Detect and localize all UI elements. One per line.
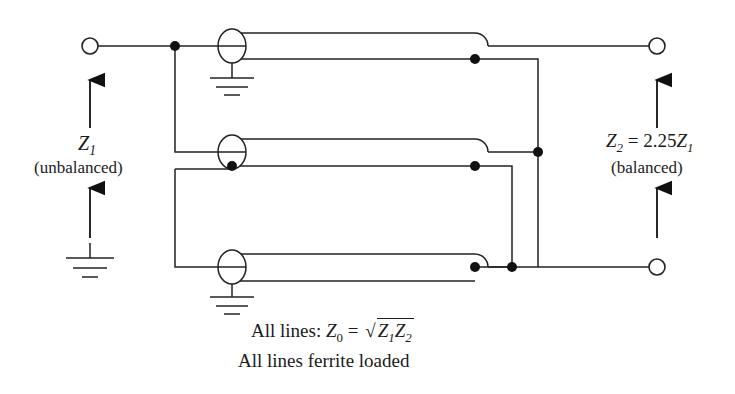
left-mode-label: (unbalanced): [34, 158, 123, 178]
output-terminal-bottom[interactable]: [649, 259, 665, 275]
right-impedance-label: Z2 = 2.25Z1: [606, 130, 694, 156]
z2-symbol: Z: [606, 130, 617, 151]
input-terminal[interactable]: [82, 38, 98, 54]
junction-dot-line1-shield: [470, 54, 480, 64]
left-impedance-symbol: Z: [78, 132, 89, 154]
right-mode-label: (balanced): [611, 158, 683, 178]
z0-symbol: Z: [326, 320, 337, 341]
z2-z1-symbol: Z: [677, 130, 688, 151]
output-terminal-top[interactable]: [649, 38, 665, 54]
radicand-z2: Z: [395, 320, 406, 341]
radicand: Z1Z2: [377, 318, 414, 346]
transmission-line-2: [218, 135, 538, 169]
sqrt-symbol: √Z1Z2: [363, 318, 414, 346]
radicand-z1: Z: [378, 320, 389, 341]
junction-dot-bottom-rail: [507, 262, 517, 272]
caption-ferrite: All lines ferrite loaded: [238, 350, 409, 372]
z0-equals: =: [343, 320, 363, 341]
junction-dot-input: [170, 41, 180, 51]
caption-z0: All lines: Z0 = √Z1Z2: [251, 318, 414, 346]
ground-symbol-left: [66, 243, 114, 277]
z2-z1-subscript: 1: [687, 140, 693, 155]
left-impedance-subscript: 1: [89, 143, 96, 158]
junction-dot-line2-shield: [470, 161, 480, 171]
input-wiring: [98, 46, 232, 267]
z2-equals: = 2.25: [623, 130, 676, 151]
transmission-line-3: [210, 250, 512, 314]
junction-dot-line3-shield: [470, 262, 480, 272]
figure-canvas: Z1 (unbalanced) Z2 = 2.25Z1 (balanced) A…: [0, 0, 735, 394]
junction-dot-line2-inner: [533, 147, 543, 157]
left-impedance-label: Z1: [78, 132, 96, 159]
transmission-line-1: [210, 29, 650, 95]
radicand-z2-subscript: 2: [405, 330, 411, 345]
junction-dot-line2-left: [227, 161, 237, 171]
caption-prefix: All lines:: [251, 320, 326, 341]
